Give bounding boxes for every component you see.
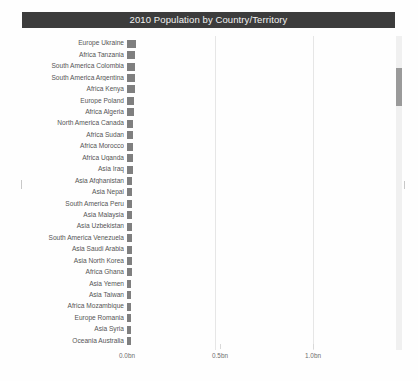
bar-track <box>127 175 132 186</box>
bar[interactable] <box>127 246 132 254</box>
bar-row[interactable]: Africa Morocco <box>0 141 418 152</box>
bar-row-label: Asia Saudi Arabia <box>0 246 124 253</box>
bar[interactable] <box>127 326 131 334</box>
bar-track <box>127 221 132 232</box>
bar[interactable] <box>127 97 134 105</box>
bar-row-label: Africa Morocco <box>0 143 124 150</box>
bar-row[interactable]: Asia Afghanistan <box>0 175 418 186</box>
bar-track <box>127 244 132 255</box>
bar-row-label: Asia Iraq <box>0 166 124 173</box>
bar-track <box>127 141 133 152</box>
bar-track <box>127 335 131 346</box>
bar[interactable] <box>127 74 135 82</box>
bar-row-label: South America Colombia <box>0 63 124 70</box>
bar-row[interactable]: Asia Malaysia <box>0 210 418 221</box>
bar[interactable] <box>127 200 132 208</box>
bar[interactable] <box>127 188 132 196</box>
bar-track <box>127 278 131 289</box>
bar-row[interactable]: Africa Sudan <box>0 130 418 141</box>
bar-row-label: Africa Sudan <box>0 132 124 139</box>
bar-row[interactable]: Asia Taiwan <box>0 290 418 301</box>
bar-row[interactable]: Asia North Korea <box>0 255 418 266</box>
bar[interactable] <box>127 63 135 71</box>
scrollbar-thumb[interactable] <box>396 68 402 106</box>
bar-track <box>127 187 132 198</box>
bar-track <box>127 198 132 209</box>
bar-row[interactable]: Africa Uganda <box>0 152 418 163</box>
bar-row[interactable]: Asia Syria <box>0 324 418 335</box>
bar[interactable] <box>127 291 131 299</box>
bar-row-label: Asia North Korea <box>0 258 124 265</box>
bar-row[interactable]: Asia Uzbekistan <box>0 221 418 232</box>
bar[interactable] <box>127 85 135 93</box>
bar-track <box>127 107 134 118</box>
bar-row-label: Asia Uzbekistan <box>0 223 124 230</box>
bar-track <box>127 152 133 163</box>
bar-row[interactable]: North America Canada <box>0 118 418 129</box>
bar[interactable] <box>127 154 133 162</box>
bar-track <box>127 61 135 72</box>
bar-row[interactable]: South America Argentina <box>0 72 418 83</box>
bar-row[interactable]: Asia Yemen <box>0 278 418 289</box>
bar-row-label: Europe Ukraine <box>0 40 124 47</box>
bar[interactable] <box>127 314 131 322</box>
bar-row-label: Asia Malaysia <box>0 212 124 219</box>
bar-row[interactable]: Asia Nepal <box>0 187 418 198</box>
bar-row-label: South America Venezuela <box>0 235 124 242</box>
bar-row[interactable]: Europe Ukraine <box>0 38 418 49</box>
x-axis-tick-mark <box>313 344 314 349</box>
bar-track <box>127 49 135 60</box>
page-title: 2010 Population by Country/Territory <box>130 15 288 25</box>
bar[interactable] <box>127 223 132 231</box>
bar-row[interactable]: Europe Romania <box>0 313 418 324</box>
bar-row-label: Africa Tanzania <box>0 52 124 59</box>
bar-row[interactable]: Africa Kenya <box>0 84 418 95</box>
bar-track <box>127 118 133 129</box>
bar-track <box>127 210 132 221</box>
bar[interactable] <box>127 337 131 345</box>
vertical-scrollbar[interactable] <box>396 36 402 350</box>
bar-track <box>127 313 131 324</box>
bar-track <box>127 232 132 243</box>
bar-row[interactable]: Africa Tanzania <box>0 49 418 60</box>
bar-row[interactable]: Asia Iraq <box>0 164 418 175</box>
bar-row-label: South America Peru <box>0 201 124 208</box>
x-axis: 0.0bn0.5bn1.0bn <box>0 348 418 372</box>
bar[interactable] <box>127 268 132 276</box>
bar[interactable] <box>127 257 132 265</box>
bar-row[interactable]: Oceania Australia <box>0 335 418 346</box>
bar-track <box>127 255 132 266</box>
bar[interactable] <box>127 211 132 219</box>
bar[interactable] <box>127 177 132 185</box>
bar[interactable] <box>127 234 132 242</box>
bar-row-label: Asia Afghanistan <box>0 178 124 185</box>
chart-title-bar: 2010 Population by Country/Territory <box>22 12 395 28</box>
bar-row[interactable]: Africa Mozambique <box>0 301 418 312</box>
bar-row[interactable]: South America Colombia <box>0 61 418 72</box>
bar-row-label: Europe Poland <box>0 98 124 105</box>
bar-row[interactable]: Africa Ghana <box>0 267 418 278</box>
bar[interactable] <box>127 108 134 116</box>
bar-row-label: South America Argentina <box>0 75 124 82</box>
bar[interactable] <box>127 280 131 288</box>
bar-row-label: Asia Taiwan <box>0 292 124 299</box>
bar-row[interactable]: South America Venezuela <box>0 232 418 243</box>
bar-rows: Europe UkraineAfrica TanzaniaSouth Ameri… <box>0 38 418 347</box>
bar-row-label: Africa Ghana <box>0 269 124 276</box>
bar[interactable] <box>127 40 136 48</box>
bar-track <box>127 130 133 141</box>
bar-row[interactable]: Europe Poland <box>0 95 418 106</box>
bar-track <box>127 72 135 83</box>
bar-row-label: North America Canada <box>0 120 124 127</box>
x-axis-tick-mark <box>220 344 221 349</box>
bar[interactable] <box>127 166 133 174</box>
bar-row[interactable]: Asia Saudi Arabia <box>0 244 418 255</box>
bar-row[interactable]: Africa Algeria <box>0 107 418 118</box>
bar-row[interactable]: South America Peru <box>0 198 418 209</box>
bar[interactable] <box>127 131 133 139</box>
bar[interactable] <box>127 303 131 311</box>
bar-track <box>127 301 131 312</box>
bar[interactable] <box>127 51 135 59</box>
bar[interactable] <box>127 143 133 151</box>
bar[interactable] <box>127 120 133 128</box>
